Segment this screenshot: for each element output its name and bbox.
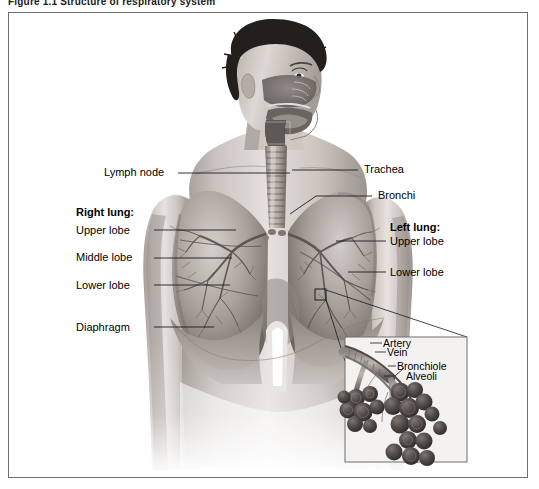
label-right-lung-heading: Right lung: xyxy=(76,207,134,218)
label-left-lung-heading: Left lung: xyxy=(390,222,440,233)
label-right-lower-lobe: Lower lobe xyxy=(76,280,130,291)
label-diaphragm: Diaphragm xyxy=(76,322,130,333)
label-left-upper-lobe: Upper lobe xyxy=(390,236,444,247)
label-vein: Vein xyxy=(387,347,407,358)
label-left-lower-lobe: Lower lobe xyxy=(390,267,444,278)
label-lymph-node: Lymph node xyxy=(104,167,164,178)
label-right-upper-lobe: Upper lobe xyxy=(76,225,130,236)
respiratory-system-illustration xyxy=(0,0,539,489)
label-right-middle-lobe: Middle lobe xyxy=(76,252,132,263)
label-trachea: Trachea xyxy=(364,164,404,175)
figure-page: Figure 1.1 Structure of respiratory syst… xyxy=(0,0,539,489)
label-alveoli: Alveoli xyxy=(406,371,437,382)
label-bronchi: Bronchi xyxy=(378,190,415,201)
head xyxy=(222,19,327,150)
